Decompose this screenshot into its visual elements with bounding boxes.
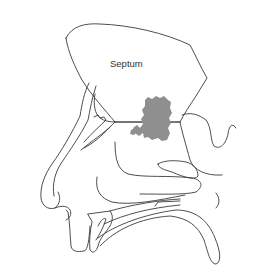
middle-turbinate	[115, 142, 201, 194]
sphenoid-line	[182, 114, 236, 148]
nasal-cartilage-3	[81, 122, 115, 150]
nasal-anatomy-diagram	[0, 0, 254, 279]
eustachian-arc	[216, 193, 219, 208]
lesion-shaded-region	[133, 96, 172, 141]
palate-lower	[98, 210, 220, 264]
septum-outline	[66, 24, 207, 122]
palate-upper	[110, 199, 180, 211]
septum-label: Septum	[110, 59, 143, 69]
posterior-septum-line	[180, 122, 222, 175]
nasal-cartilage-2	[84, 115, 106, 142]
incisor-inner	[96, 218, 106, 240]
nasal-dorsum-inner	[53, 86, 96, 196]
nasal-dorsum-outer	[41, 83, 89, 209]
